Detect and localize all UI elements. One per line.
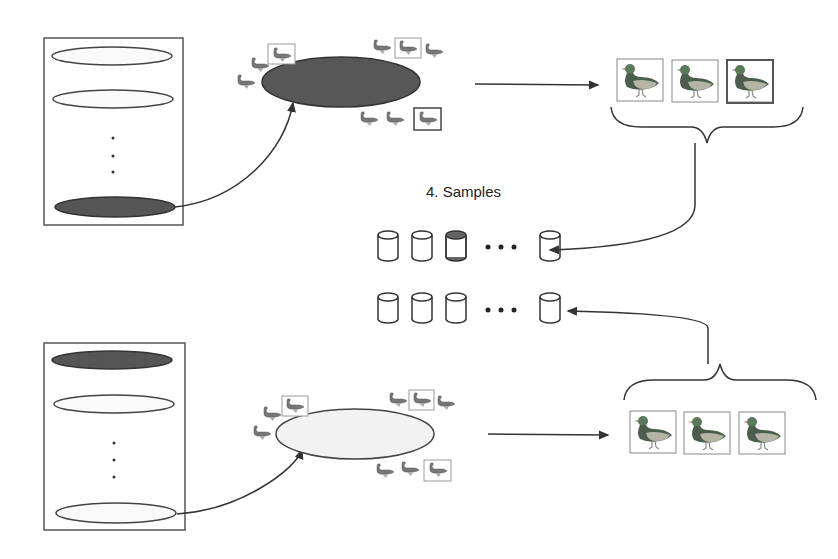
bottom-brace-arrow <box>568 311 708 364</box>
bottom-population-stack <box>44 343 185 530</box>
bottom-cluster <box>254 390 455 481</box>
top-cluster-arrow <box>475 84 598 85</box>
top-select-arrow <box>175 103 293 207</box>
bottom-brace <box>624 364 816 400</box>
top-population-stack <box>44 38 183 225</box>
top-selected-ducks <box>617 59 773 103</box>
bagging-diagram <box>0 0 838 559</box>
top-brace <box>611 107 803 143</box>
bottom-select-arrow <box>177 450 302 514</box>
sample-row-2 <box>378 293 560 323</box>
bottom-cluster-arrow <box>488 434 608 435</box>
top-brace-arrow <box>550 143 695 250</box>
top-cluster <box>238 38 443 130</box>
bottom-selected-ducks <box>630 411 785 454</box>
sample-row-1 <box>378 231 560 261</box>
